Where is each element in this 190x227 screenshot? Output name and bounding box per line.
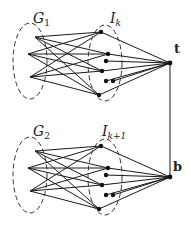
node bbox=[99, 30, 103, 34]
edge bbox=[28, 32, 101, 54]
edge bbox=[102, 177, 170, 185]
label-g1: G1 bbox=[33, 10, 50, 28]
g1-ellipse bbox=[13, 23, 47, 99]
node bbox=[104, 59, 108, 63]
node bbox=[104, 173, 108, 177]
node bbox=[97, 207, 101, 211]
edge bbox=[28, 168, 102, 185]
diagram: G1 Ik t G2 Ik+1 b bbox=[0, 0, 190, 227]
edge bbox=[99, 177, 170, 209]
node bbox=[168, 175, 173, 180]
node bbox=[100, 69, 104, 73]
node bbox=[104, 79, 108, 83]
node bbox=[97, 93, 101, 97]
node bbox=[111, 79, 115, 83]
edge bbox=[99, 63, 170, 95]
node bbox=[168, 61, 173, 66]
node bbox=[100, 183, 104, 187]
edge bbox=[28, 146, 101, 168]
g2-ellipse bbox=[13, 137, 47, 213]
edge bbox=[102, 63, 170, 71]
label-g2: G2 bbox=[33, 123, 50, 141]
node bbox=[104, 193, 108, 197]
label-t: t bbox=[174, 41, 180, 56]
node bbox=[106, 166, 110, 170]
graph-canvas: G1 Ik t G2 Ik+1 b bbox=[0, 0, 190, 227]
label-b: b bbox=[173, 159, 182, 174]
node bbox=[106, 52, 110, 56]
edges bbox=[28, 32, 170, 209]
edge bbox=[28, 54, 102, 71]
node bbox=[111, 193, 115, 197]
node bbox=[99, 144, 103, 148]
label-ik: Ik bbox=[109, 10, 121, 28]
label-ik1: Ik+1 bbox=[101, 123, 126, 141]
